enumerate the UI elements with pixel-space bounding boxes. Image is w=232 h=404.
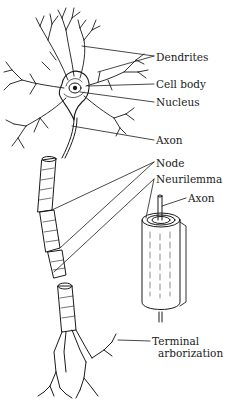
label-neurilemma: Neurilemma — [156, 173, 222, 185]
label-node: Node — [156, 157, 184, 169]
label-axon: Axon — [156, 134, 183, 146]
label-arborization: arborization — [158, 347, 223, 359]
label-axon-inset: Axon — [188, 192, 215, 204]
terminal-arborization — [38, 330, 116, 398]
cell-body — [59, 71, 89, 120]
label-nucleus: Nucleus — [156, 96, 200, 108]
leader-lines — [52, 46, 186, 341]
label-cell-body: Cell body — [156, 78, 206, 90]
label-terminal: Terminal — [152, 335, 199, 347]
neurilemma-inset — [142, 195, 186, 322]
label-dendrites: Dendrites — [156, 51, 208, 63]
myelin-sheath — [38, 157, 76, 333]
